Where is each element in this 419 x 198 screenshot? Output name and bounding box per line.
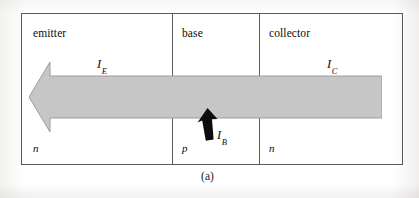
current-subscript-ib: B xyxy=(222,137,227,147)
current-subscript-ic: C xyxy=(332,66,338,76)
doping-label-base: p xyxy=(182,142,188,154)
region-label-collector: collector xyxy=(269,27,310,39)
current-symbol-ib: I xyxy=(217,128,221,142)
current-symbol-ie: I xyxy=(97,57,101,71)
current-symbol-ic: I xyxy=(327,57,331,71)
figure-caption-text: (a) xyxy=(201,170,214,182)
region-label-emitter: emitter xyxy=(33,27,66,39)
doping-label-emitter: n xyxy=(33,142,39,154)
region-label-base: base xyxy=(182,27,203,39)
figure-page: emitter base collector n p n IE IC IB (a… xyxy=(0,0,419,198)
figure-caption: (a) xyxy=(0,170,419,182)
doping-label-collector: n xyxy=(269,142,275,154)
current-label-emitter: IE xyxy=(97,57,106,74)
current-subscript-ie: E xyxy=(102,66,107,76)
current-label-collector: IC xyxy=(327,57,337,74)
divider-emitter-base xyxy=(172,14,173,164)
current-label-base: IB xyxy=(217,128,226,145)
transistor-diagram-box: emitter base collector n p n xyxy=(21,13,403,165)
divider-base-collector xyxy=(259,14,260,164)
